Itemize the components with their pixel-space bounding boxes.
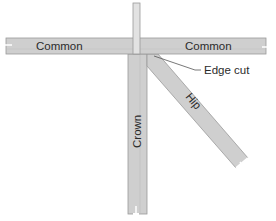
- roof-framing-diagram: Common Common Edge cut Crown Hip: [0, 0, 276, 221]
- label-edge-cut: Edge cut: [204, 64, 250, 76]
- label-common-right: Common: [185, 40, 232, 52]
- label-crown: Crown: [131, 115, 143, 148]
- ridge-stub: [133, 3, 140, 54]
- label-common-left: Common: [36, 40, 83, 52]
